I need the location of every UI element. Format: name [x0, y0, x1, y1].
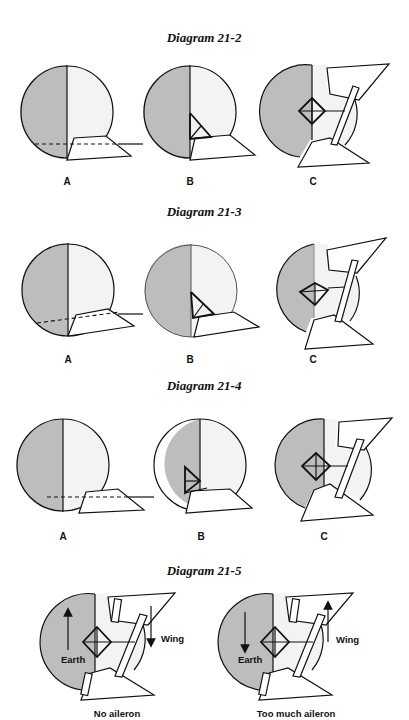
diagram-title: Diagram 21-3 [166, 204, 242, 219]
panel-too-much-aileron: Earth Wing Too much aileron [218, 593, 359, 719]
panel-c: C [277, 238, 386, 365]
panel-label: C [320, 531, 327, 542]
panel-b: B [145, 244, 260, 365]
panel-caption: Too much aileron [257, 708, 336, 719]
diagram-21-4: Diagram 21-4 A B [17, 378, 393, 542]
panel-label: A [63, 176, 70, 187]
wing-label: Wing [161, 633, 184, 644]
diagram-21-3: Diagram 21-3 A B [22, 204, 387, 365]
panel-b: B [154, 419, 252, 542]
panel-a: A [17, 419, 155, 542]
earth-label: Earth [61, 654, 85, 665]
panel-label: B [186, 176, 193, 187]
diagram-21-2: Diagram 21-2 A B [20, 30, 389, 187]
diagram-title: Diagram 21-4 [166, 378, 242, 393]
panel-c: C [275, 418, 392, 542]
panel-a: A [20, 65, 143, 187]
panel-caption: No aileron [94, 708, 141, 719]
diagram-title: Diagram 21-2 [166, 30, 242, 45]
diagram-title: Diagram 21-5 [166, 563, 242, 578]
panel-label: A [59, 531, 66, 542]
panel-label: C [309, 176, 316, 187]
wing-label: Wing [336, 634, 359, 645]
panel-no-aileron: Earth Wing No aileron [40, 593, 184, 719]
panel-label: B [186, 354, 193, 365]
panel-label: B [197, 531, 204, 542]
panel-c: C [260, 64, 389, 187]
panel-b: B [143, 65, 255, 187]
panel-a: A [22, 243, 143, 365]
panel-label: C [309, 354, 316, 365]
earth-label: Earth [238, 654, 262, 665]
diagram-21-5: Diagram 21-5 Earth Wing No aileron [40, 563, 359, 719]
panel-label: A [64, 354, 71, 365]
diagram-sheet: Diagram 21-2 A B [0, 0, 409, 720]
